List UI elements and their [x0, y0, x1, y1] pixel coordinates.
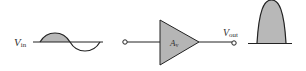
- amplifier-diagram: Vin Av Vout: [0, 0, 306, 71]
- input-label: Vin: [14, 36, 27, 49]
- output-waveform: [248, 0, 292, 44]
- amplifier-triangle: [160, 20, 199, 65]
- output-terminal: [232, 41, 236, 45]
- output-label: Vout: [223, 27, 238, 39]
- input-waveform: [33, 33, 103, 51]
- input-terminal: [123, 40, 127, 44]
